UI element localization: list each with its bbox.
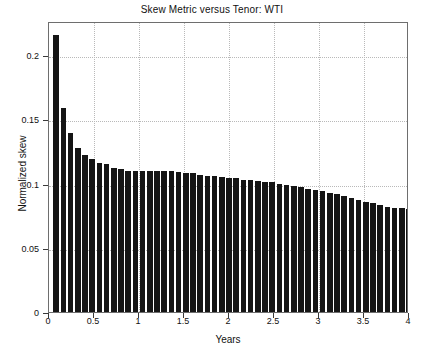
plot-area	[48, 22, 408, 313]
bar	[277, 184, 283, 312]
bar	[183, 173, 189, 312]
bar	[161, 171, 167, 312]
bar	[255, 181, 261, 312]
bar	[133, 171, 139, 312]
bar	[262, 182, 268, 312]
bar	[169, 171, 175, 312]
bar	[212, 176, 218, 312]
bar	[118, 169, 124, 312]
bar	[363, 202, 369, 312]
x-tick-label: 1.5	[177, 316, 190, 326]
x-tick-label: 1	[135, 316, 140, 326]
bar	[97, 163, 103, 312]
y-tick-label: 0.05	[0, 244, 39, 254]
bar	[377, 205, 383, 312]
bar	[176, 172, 182, 312]
bar	[370, 203, 376, 312]
bar	[406, 209, 408, 312]
page-title: Skew Metric versus Tenor: WTI	[0, 4, 424, 15]
bar	[392, 208, 398, 312]
bar-series	[49, 23, 407, 312]
bar	[205, 176, 211, 312]
bar	[226, 178, 232, 312]
bar	[53, 35, 59, 313]
bar	[197, 175, 203, 312]
y-tick-mark	[43, 120, 48, 121]
bar	[320, 191, 326, 312]
figure-canvas: Skew Metric versus Tenor: WTI 00.050.10.…	[0, 0, 424, 358]
bar	[75, 148, 81, 312]
bar	[399, 208, 405, 312]
bar	[269, 182, 275, 312]
bar	[111, 168, 117, 312]
bar	[104, 164, 110, 312]
x-axis-label: Years	[48, 334, 408, 345]
bar	[349, 198, 355, 312]
bar	[61, 108, 67, 312]
bar	[140, 171, 146, 312]
bar	[125, 171, 131, 312]
bar	[356, 200, 362, 312]
bar	[190, 173, 196, 312]
x-tick-label: 3	[315, 316, 320, 326]
bar	[313, 190, 319, 312]
y-axis-label: Normalized skew	[17, 114, 28, 234]
bar	[334, 194, 340, 312]
bar	[68, 133, 74, 312]
x-tick-label: 2.5	[267, 316, 280, 326]
x-tick-label: 4	[405, 316, 410, 326]
y-tick-mark	[43, 185, 48, 186]
bar	[341, 196, 347, 312]
y-tick-label: 0	[0, 308, 39, 318]
bar	[291, 186, 297, 312]
bar	[327, 193, 333, 312]
bar	[298, 187, 304, 312]
bar	[233, 178, 239, 312]
y-tick-label: 0.2	[0, 51, 39, 61]
x-tick-label: 2	[225, 316, 230, 326]
bar	[248, 180, 254, 312]
bar	[147, 171, 153, 312]
bar	[385, 207, 391, 312]
bar	[89, 159, 95, 312]
bar	[219, 177, 225, 312]
bar	[82, 155, 88, 312]
x-tick-label: 0.5	[87, 316, 100, 326]
bar	[241, 180, 247, 312]
bar	[305, 189, 311, 312]
bar	[154, 171, 160, 312]
y-tick-mark	[43, 56, 48, 57]
x-tick-label: 0	[45, 316, 50, 326]
y-tick-mark	[43, 249, 48, 250]
bar	[284, 185, 290, 312]
x-tick-label: 3.5	[357, 316, 370, 326]
